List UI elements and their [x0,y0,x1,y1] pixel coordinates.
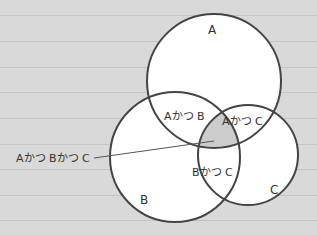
label-b: B [140,194,148,206]
label-a-and-b: Aかつ B [164,111,205,122]
venn-graphic [0,0,317,235]
label-b-and-c: Bかつ C [192,167,233,178]
label-a: A [208,24,216,36]
label-a-and-c: Aかつ C [222,116,263,127]
label-c: C [270,184,278,196]
label-a-and-b-and-c: Aかつ Bかつ C [16,153,90,164]
venn-diagram: A B C Aかつ B Aかつ C Bかつ C Aかつ Bかつ C [0,0,317,235]
